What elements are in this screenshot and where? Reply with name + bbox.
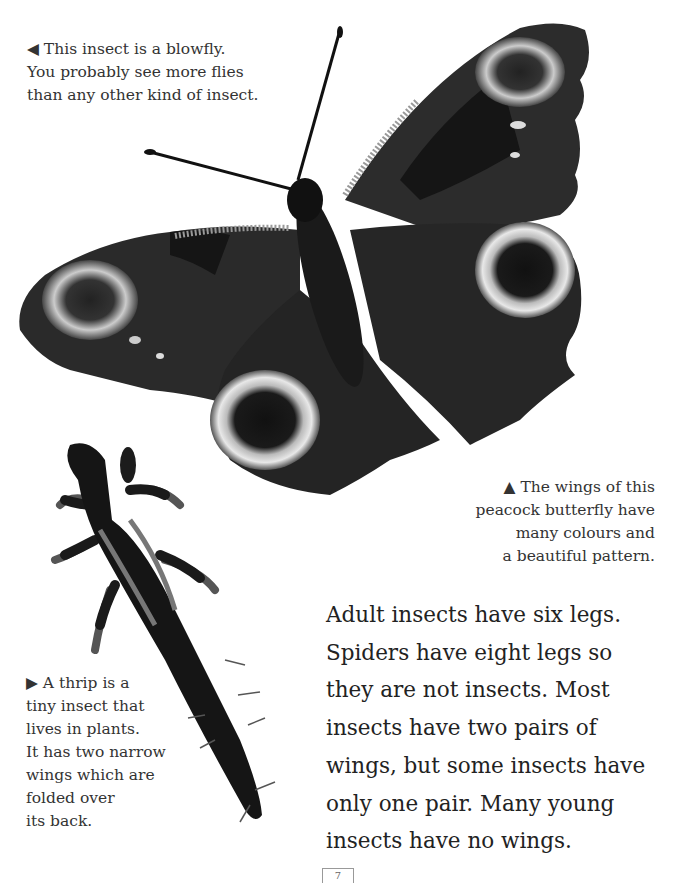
thrip-caption: ▶ A thrip is a tiny insect that lives in… [26, 672, 206, 833]
left-triangle-icon: ◀ [27, 40, 39, 58]
page-number: 7 [322, 868, 354, 883]
up-triangle-icon: ▲ [504, 478, 516, 496]
butterfly-caption: ▲ The wings of this peacock butterfly ha… [405, 476, 655, 568]
main-body-text: Adult insects have six legs. Spiders hav… [326, 596, 671, 860]
blowfly-caption: ◀ This insect is a blowfly. You probably… [27, 38, 327, 107]
right-triangle-icon: ▶ [26, 674, 38, 692]
